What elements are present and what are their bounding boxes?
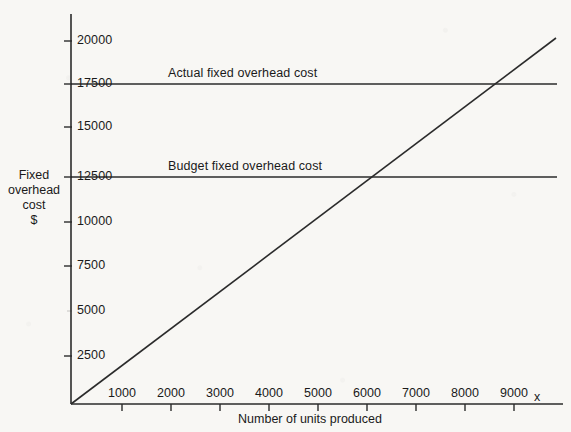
x-tick-label-8000: 8000 xyxy=(441,386,489,401)
budget-fixed-overhead-label: Budget fixed overhead cost xyxy=(168,159,322,174)
y-axis-title-line-1: Fixed xyxy=(2,168,66,183)
chart-page: 20000 17500 15000 12500 10000 7500 5000 … xyxy=(0,0,571,432)
x-axis-variable-label: x xyxy=(534,390,540,404)
x-tick-label-4000: 4000 xyxy=(245,386,293,401)
x-tick-label-6000: 6000 xyxy=(343,386,391,401)
y-tick-label-17500: 17500 xyxy=(77,76,112,91)
x-tick-label-1000: 1000 xyxy=(98,386,146,401)
y-axis-title: Fixed overhead cost $ xyxy=(2,168,66,228)
x-tick-label-9000: 9000 xyxy=(490,386,538,401)
y-tick-label-5000: 5000 xyxy=(77,303,105,318)
actual-fixed-overhead-label: Actual fixed overhead cost xyxy=(168,66,317,81)
y-tick-label-20000: 20000 xyxy=(77,33,112,48)
y-tick-label-12500: 12500 xyxy=(77,169,112,184)
x-tick-label-2000: 2000 xyxy=(147,386,195,401)
x-tick-label-7000: 7000 xyxy=(392,386,440,401)
x-tick-label-3000: 3000 xyxy=(196,386,244,401)
y-tick-label-7500: 7500 xyxy=(77,258,105,273)
y-axis-title-line-2: overhead xyxy=(2,183,66,198)
y-tick-label-15000: 15000 xyxy=(77,119,112,134)
x-tick-marks xyxy=(122,404,514,411)
absorbed-overhead-line xyxy=(71,38,556,404)
y-tick-label-2500: 2500 xyxy=(77,348,105,363)
x-axis-title: Number of units produced xyxy=(185,412,435,426)
y-axis-title-line-4: $ xyxy=(2,213,66,228)
y-tick-label-10000: 10000 xyxy=(77,214,112,229)
x-tick-label-5000: 5000 xyxy=(294,386,342,401)
y-axis-title-line-3: cost xyxy=(2,198,66,213)
